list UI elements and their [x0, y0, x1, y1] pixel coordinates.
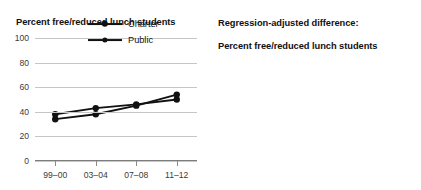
legend-item-public: Public [88, 32, 159, 48]
x-axis-tick [55, 161, 56, 166]
legend-label-charter: Charter [128, 19, 159, 29]
gridline [35, 161, 197, 162]
x-axis-tick [96, 161, 97, 166]
legend-item-charter: Charter [88, 16, 159, 32]
left-panel-legend: Charter Public [88, 16, 159, 48]
right-panel-title-line2: Percent free/reduced lunch students [218, 41, 377, 51]
gridline [35, 63, 197, 64]
gridline [35, 112, 197, 113]
data-point-marker [93, 105, 99, 111]
x-axis-tick [136, 161, 137, 166]
right-panel: Regression-adjusted difference: Percent … [211, 0, 421, 190]
data-point-marker [174, 96, 180, 102]
x-axis-tick-label: 99–00 [43, 170, 67, 180]
y-axis-tick-label: 0 [24, 156, 29, 166]
legend-key-public [88, 34, 122, 46]
left-plot-area: 02040608010099–0003–0407–0811–12 [35, 38, 197, 161]
right-panel-title: Regression-adjusted difference: Percent … [218, 6, 377, 52]
y-axis-tick-label: 60 [19, 82, 29, 92]
left-series-lines [35, 38, 197, 161]
gridline [35, 136, 197, 137]
x-axis-line [35, 160, 197, 161]
x-axis-tick-label: 03–04 [84, 170, 108, 180]
legend-marker-public [102, 37, 107, 42]
two-panel-line-chart-figure: Percent free/reduced lunch students 0204… [0, 0, 421, 190]
x-axis-tick-label: 07–08 [124, 170, 148, 180]
y-axis-tick-label: 80 [19, 58, 29, 68]
y-axis-tick-label: 100 [15, 33, 29, 43]
legend-label-public: Public [128, 35, 153, 45]
data-point-marker [133, 101, 139, 107]
x-axis-tick-label: 11–12 [165, 170, 188, 180]
x-axis-tick [177, 161, 178, 166]
gridline [35, 87, 197, 88]
legend-key-charter [88, 18, 122, 30]
y-axis-tick-label: 20 [19, 131, 29, 141]
left-panel: Percent free/reduced lunch students 0204… [0, 0, 211, 190]
right-panel-title-line1: Regression-adjusted difference: [218, 18, 359, 28]
y-axis-tick-label: 40 [19, 107, 29, 117]
legend-marker-charter [102, 21, 108, 27]
